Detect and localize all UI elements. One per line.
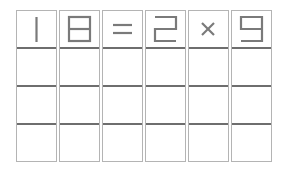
cell-r1-c1[interactable] bbox=[17, 11, 56, 49]
column-1 bbox=[16, 10, 57, 162]
cell-r1-c6[interactable] bbox=[232, 11, 271, 49]
column-2 bbox=[59, 10, 100, 162]
cell-r4-c4[interactable] bbox=[146, 125, 185, 161]
cell-r2-c3[interactable] bbox=[103, 49, 142, 87]
digit-1-icon bbox=[17, 11, 56, 47]
cell-r2-c6[interactable] bbox=[232, 49, 271, 87]
column-4 bbox=[145, 10, 186, 162]
cell-r4-c3[interactable] bbox=[103, 125, 142, 161]
digit-8-icon bbox=[60, 11, 99, 47]
cell-r4-c5[interactable] bbox=[189, 125, 228, 161]
cell-r3-c3[interactable] bbox=[103, 87, 142, 125]
cell-r3-c1[interactable] bbox=[17, 87, 56, 125]
cell-r4-c1[interactable] bbox=[17, 125, 56, 161]
cell-r4-c2[interactable] bbox=[60, 125, 99, 161]
cell-r1-c5[interactable] bbox=[189, 11, 228, 49]
digit-2-icon bbox=[146, 11, 185, 47]
cell-r2-c1[interactable] bbox=[17, 49, 56, 87]
cell-r1-c2[interactable] bbox=[60, 11, 99, 49]
cell-r4-c6[interactable] bbox=[232, 125, 271, 161]
column-5 bbox=[188, 10, 229, 162]
cell-r3-c2[interactable] bbox=[60, 87, 99, 125]
cell-r3-c4[interactable] bbox=[146, 87, 185, 125]
cell-r1-c4[interactable] bbox=[146, 11, 185, 49]
cell-r2-c4[interactable] bbox=[146, 49, 185, 87]
cell-r2-c2[interactable] bbox=[60, 49, 99, 87]
cell-r3-c5[interactable] bbox=[189, 87, 228, 125]
multiply-sign-icon bbox=[189, 11, 228, 47]
cell-r3-c6[interactable] bbox=[232, 87, 271, 125]
cell-r2-c5[interactable] bbox=[189, 49, 228, 87]
puzzle-board bbox=[16, 10, 272, 162]
cell-r1-c3[interactable] bbox=[103, 11, 142, 49]
digit-9-icon bbox=[232, 11, 271, 47]
column-3 bbox=[102, 10, 143, 162]
column-6 bbox=[231, 10, 272, 162]
equals-sign-icon bbox=[103, 11, 142, 47]
